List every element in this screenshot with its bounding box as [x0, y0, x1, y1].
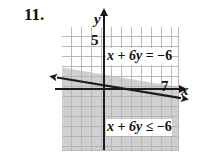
equation-right-side: −6 — [157, 48, 172, 63]
equation-term-6y: 6y — [129, 48, 142, 63]
equation-plus-sign: + — [118, 48, 126, 63]
inequality-right-side: −6 — [157, 119, 172, 134]
y-axis-arrow-icon — [100, 8, 108, 16]
textbook-problem-figure: 11. 5 7 y x — [0, 0, 198, 159]
y-axis-tick-label-5: 5 — [91, 33, 99, 48]
inequality-term-6y: 6y — [129, 119, 142, 134]
equation-annotation: x + 6y = −6 — [106, 48, 172, 65]
inequality-variable-x: x — [107, 119, 114, 134]
inequality-relation-sign: ≤ — [146, 119, 154, 134]
coordinate-graph: 5 7 y x x + 6y = −6 x + 6y ≤ −6 — [62, 27, 178, 150]
inequality-plus-sign: + — [118, 119, 126, 134]
equation-variable-x: x — [107, 48, 114, 63]
equation-relation-sign: = — [146, 48, 154, 63]
x-axis-label: x — [181, 83, 189, 98]
y-axis-label: y — [94, 12, 101, 27]
problem-number: 11. — [24, 6, 44, 23]
x-axis-tick-label-7: 7 — [161, 79, 169, 94]
inequality-annotation: x + 6y ≤ −6 — [106, 119, 172, 136]
